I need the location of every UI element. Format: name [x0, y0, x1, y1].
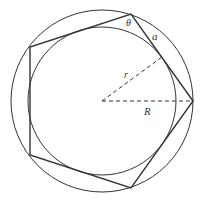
theta-label: θ [126, 17, 131, 28]
inradius-label: r [124, 69, 128, 80]
inradius-line [102, 57, 162, 101]
side-label: a [152, 30, 158, 42]
circumradius-label: R [143, 105, 151, 117]
pentagon-circles-diagram: θ a r R [0, 0, 204, 206]
